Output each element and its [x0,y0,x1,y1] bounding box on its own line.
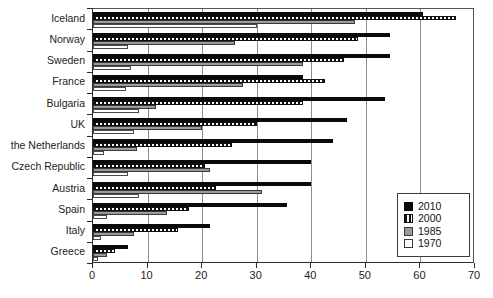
legend-label-2000: 2000 [418,213,441,224]
y-axis-label-uk: UK [70,119,85,130]
y-axis-tick [87,242,92,243]
y-axis-label-the-netherlands: the Netherlands [11,140,85,151]
y-axis-tick [87,263,92,264]
legend-label-2010: 2010 [418,201,441,212]
x-axis-tick-70 [474,263,475,268]
x-axis-label-10: 10 [140,269,152,281]
x-axis-label-50: 50 [359,269,371,281]
y-axis-tick [87,8,92,9]
x-axis-tick-40 [310,263,311,268]
x-axis-tick-60 [419,263,420,268]
x-axis-tick-30 [256,263,257,268]
legend-swatch-2010 [404,202,413,211]
x-axis-label-40: 40 [304,269,316,281]
bar-1970 [93,194,139,198]
y-axis-tick [87,29,92,30]
x-axis-tick-10 [147,263,148,268]
legend-swatch-1985 [404,227,413,236]
legend-swatch-1970 [404,239,413,248]
y-axis-tick [87,93,92,94]
y-axis-label-bulgaria: Bulgaria [46,98,85,109]
legend-item-1970[interactable]: 1970 [404,238,463,249]
y-axis-label-sweden: Sweden [47,55,85,66]
y-axis-label-france: France [52,76,85,87]
y-axis-tick [87,157,92,158]
bar-group [93,73,473,94]
x-axis-label-30: 30 [250,269,262,281]
bar-group [93,9,473,30]
bar-1970 [93,130,134,134]
legend-item-1985[interactable]: 1985 [404,226,463,237]
bar-1970 [93,236,101,240]
x-axis-label-0: 0 [89,269,95,281]
x-axis-label-70: 70 [468,269,480,281]
y-axis-label-iceland: Iceland [51,13,85,24]
bar-group [93,137,473,158]
y-axis-label-norway: Norway [49,34,85,45]
bar-group [93,52,473,73]
x-axis: 010203040506070 [0,263,493,293]
y-axis-tick [87,136,92,137]
bar-1970 [93,172,128,176]
bar-1970 [93,151,104,155]
legend-item-2010[interactable]: 2010 [404,201,463,212]
legend-item-2000[interactable]: 2000 [404,213,463,224]
x-axis-tick-0 [92,263,93,268]
chart-legend: 2010200019851970 [397,193,470,257]
y-axis-tick [87,221,92,222]
y-axis-tick [87,178,92,179]
bar-1970 [93,45,128,49]
y-axis-label-austria: Austria [52,183,85,194]
y-axis-tick [87,72,92,73]
legend-label-1970: 1970 [418,238,441,249]
y-axis-tick [87,114,92,115]
y-axis-label-italy: Italy [66,225,85,236]
x-axis-label-60: 60 [413,269,425,281]
bar-1970 [93,87,126,91]
y-axis-tick [87,199,92,200]
bar-group [93,30,473,51]
bar-chart: IcelandNorwaySwedenFranceBulgariaUKthe N… [0,0,493,298]
bar-group [93,158,473,179]
bar-group [93,94,473,115]
bar-1970 [93,109,139,113]
y-axis-tick [87,51,92,52]
legend-label-1985: 1985 [418,226,441,237]
y-axis-label-spain: Spain [58,204,85,215]
bar-group [93,115,473,136]
x-axis-tick-50 [365,263,366,268]
x-axis-label-20: 20 [195,269,207,281]
bar-1970 [93,257,98,261]
x-axis-tick-20 [201,263,202,268]
bar-1970 [93,215,107,219]
y-axis-label-czech-republic: Czech Republic [11,161,85,172]
legend-swatch-2000 [404,214,413,223]
y-axis-label-greece: Greece [51,246,85,257]
bar-1970 [93,66,131,70]
y-axis-category-labels: IcelandNorwaySwedenFranceBulgariaUKthe N… [0,8,89,263]
bar-1970 [93,24,257,28]
